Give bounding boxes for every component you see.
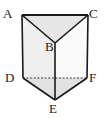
vertex-label-b: B [45,40,54,53]
vertex-label-c: C [89,7,98,20]
edge-CF [87,15,88,78]
vertex-label-a: A [3,7,12,20]
vertex-label-d: D [5,71,14,84]
edge-AD [22,15,23,78]
vertex-label-e: E [49,102,57,115]
triangular-prism-figure: A C B D F E [0,0,105,118]
vertex-label-f: F [89,71,96,84]
